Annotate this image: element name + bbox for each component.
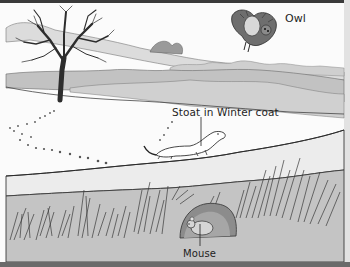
- owl-label: Owl: [285, 12, 306, 25]
- top-frame: [0, 0, 350, 3]
- stoat: [144, 131, 225, 159]
- stoat-tail-tip: [144, 146, 156, 155]
- owl: [232, 10, 277, 52]
- bottom-frame: [0, 262, 350, 267]
- landscape-artwork: [0, 0, 350, 267]
- mouse-label: Mouse: [183, 248, 216, 259]
- distant-tree-clump: [150, 41, 183, 54]
- footprints: [9, 110, 173, 164]
- stoat-label: Stoat in Winter coat: [172, 106, 279, 118]
- winter-food-chain-illustration: Owl Stoat in Winter coat Mouse: [0, 0, 350, 267]
- right-edge: [344, 0, 350, 267]
